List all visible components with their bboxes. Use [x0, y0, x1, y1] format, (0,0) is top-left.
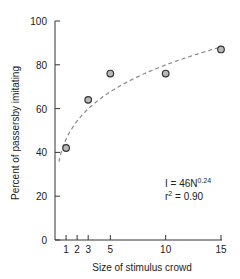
data-point: [107, 70, 114, 77]
fit-curve: [59, 47, 222, 162]
data-points: [63, 46, 225, 151]
data-point: [85, 97, 92, 104]
x-tick-label: 15: [215, 244, 227, 255]
equation-label: I = 46N0.24: [165, 177, 211, 189]
y-tick-label: 80: [36, 60, 48, 71]
x-tick-label: 3: [85, 244, 91, 255]
r-squared-label: r2 = 0.90: [165, 190, 204, 202]
y-tick-label: 60: [36, 104, 48, 115]
x-tick-label: 5: [108, 244, 114, 255]
data-point: [162, 70, 169, 77]
y-tick-label: 20: [36, 191, 48, 202]
x-tick-label: 1: [63, 244, 69, 255]
y-tick-label: 40: [36, 147, 48, 158]
axes: 02040608010012351015: [30, 16, 227, 255]
x-tick-label: 2: [74, 244, 80, 255]
y-tick-label: 0: [41, 235, 47, 246]
y-tick-label: 100: [30, 16, 47, 27]
x-tick-label: 10: [160, 244, 172, 255]
data-point: [218, 46, 225, 53]
chart: 02040608010012351015 Size of stimulus cr…: [0, 0, 240, 279]
x-axis-label: Size of stimulus crowd: [92, 262, 191, 273]
data-point: [63, 145, 70, 152]
y-axis-label: Percent of passersby imitating: [10, 66, 21, 200]
